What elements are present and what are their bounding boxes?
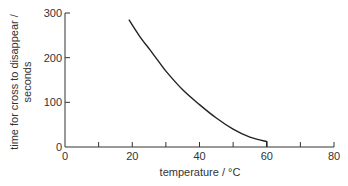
x-tick-label: 60 — [261, 150, 273, 162]
y-axis-label-line2: seconds — [21, 61, 33, 102]
x-tick-label: 20 — [126, 150, 138, 162]
x-tick-label: 80 — [328, 150, 340, 162]
data-curve — [129, 20, 267, 147]
x-axis-label: temperature / °C — [160, 166, 241, 178]
y-tick-label: 100 — [44, 96, 62, 108]
ticks: 0204060800100200300 — [44, 7, 340, 162]
chart: 0204060800100200300 temperature / °C tim… — [0, 0, 348, 186]
y-tick-label: 300 — [44, 7, 62, 19]
y-axis-label-line1: time for cross to disappear / — [8, 13, 20, 150]
x-tick-label: 40 — [193, 150, 205, 162]
x-tick-label: 0 — [62, 150, 68, 162]
y-tick-label: 200 — [44, 52, 62, 64]
axes — [65, 13, 334, 147]
y-tick-label: 0 — [56, 141, 62, 153]
